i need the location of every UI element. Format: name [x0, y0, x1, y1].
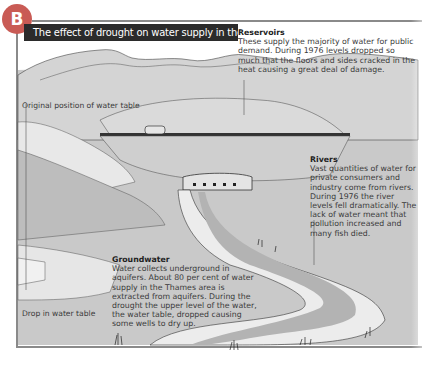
rivers-text: Vast quantities of water for private con…: [310, 164, 416, 237]
groundwater-text: Water collects underground in aquifers. …: [112, 264, 257, 328]
groundwater-annotation: Groundwater Water collects underground i…: [112, 255, 262, 329]
rivers-annotation: Rivers Vast quantities of water for priv…: [310, 155, 418, 238]
reservoirs-heading: Reservoirs: [238, 28, 418, 37]
original-water-table-label: Original position of water table: [22, 101, 140, 110]
drop-in-water-table-label: Drop in water table: [22, 309, 95, 318]
reservoirs-text: These supply the majority of water for p…: [238, 37, 415, 74]
rivers-heading: Rivers: [310, 155, 418, 164]
diagram-title: The effect of drought on water supply in…: [24, 24, 238, 41]
groundwater-heading: Groundwater: [112, 255, 262, 264]
reservoirs-annotation: Reservoirs These supply the majority of …: [238, 28, 418, 74]
